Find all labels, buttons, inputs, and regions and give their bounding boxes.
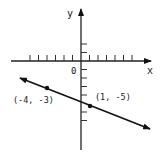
point-a-label: (-4, -3) — [13, 95, 54, 105]
coordinate-graph: y x 0 (-4, -3) (1, -5) — [0, 0, 160, 159]
x-axis-label: x — [147, 65, 153, 76]
point-b — [88, 104, 92, 108]
point-b-label: (1, -5) — [95, 92, 131, 102]
graph-line — [84, 103, 150, 129]
y-axis-label: y — [67, 8, 73, 19]
y-axis-ticks — [81, 44, 87, 121]
point-a — [45, 86, 49, 90]
origin-label: 0 — [71, 66, 76, 76]
